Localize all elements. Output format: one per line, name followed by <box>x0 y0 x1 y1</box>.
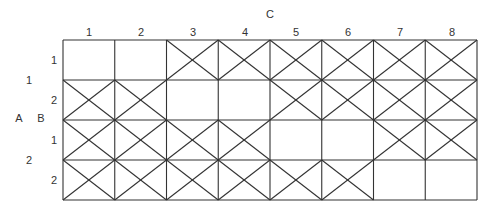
design-grid <box>0 0 492 212</box>
